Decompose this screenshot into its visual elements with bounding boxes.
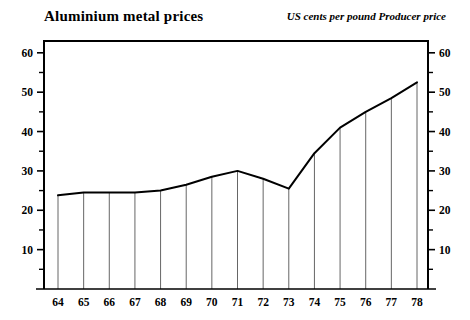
chart-plot: 102030405060 102030405060 64656667686970… (0, 0, 470, 320)
y-tick-label-right-40: 40 (439, 126, 451, 138)
y-tick-label-left-50: 50 (22, 86, 34, 98)
y-tick-label-right-60: 60 (439, 47, 451, 59)
chart-container: Aluminium metal prices US cents per poun… (0, 0, 470, 320)
y-tick-label-right-10: 10 (439, 244, 451, 256)
x-tick-label-77: 77 (386, 296, 398, 308)
y-axis-left: 102030405060 (22, 47, 44, 270)
x-axis: 646566676869707172737475767778 (52, 296, 423, 308)
plot-frame (36, 41, 436, 289)
x-tick-label-76: 76 (360, 296, 372, 308)
x-tick-label-64: 64 (52, 296, 64, 308)
y-tick-label-right-20: 20 (439, 204, 451, 216)
x-tick-label-70: 70 (206, 296, 218, 308)
x-tick-label-78: 78 (411, 296, 423, 308)
x-tick-label-73: 73 (283, 296, 295, 308)
x-tick-label-71: 71 (232, 296, 244, 308)
y-axis-right: 102030405060 (429, 47, 451, 270)
y-tick-label-left-10: 10 (22, 244, 34, 256)
y-tick-label-left-40: 40 (22, 126, 34, 138)
y-tick-label-right-30: 30 (439, 165, 451, 177)
x-tick-label-66: 66 (104, 296, 116, 308)
x-tick-label-67: 67 (129, 296, 141, 308)
x-tick-label-69: 69 (180, 296, 192, 308)
y-tick-label-left-60: 60 (22, 47, 34, 59)
y-tick-label-left-30: 30 (22, 165, 34, 177)
x-tick-label-72: 72 (257, 296, 269, 308)
x-tick-label-68: 68 (155, 296, 167, 308)
y-tick-label-right-50: 50 (439, 86, 451, 98)
frame-path (44, 41, 428, 289)
x-tick-label-74: 74 (309, 296, 321, 308)
x-tick-label-65: 65 (78, 296, 90, 308)
x-tick-label-75: 75 (334, 296, 346, 308)
y-tick-label-left-20: 20 (22, 204, 34, 216)
